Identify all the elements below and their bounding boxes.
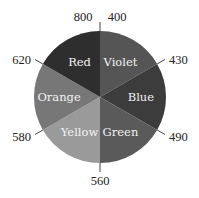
color-wheel-diagram: VioletBlueGreenYellowOrangeRed 400430490… (0, 0, 199, 198)
boundary-label-560: 560 (91, 174, 110, 188)
boundary-label-620: 620 (12, 53, 31, 67)
boundary-tick-60 (157, 60, 165, 65)
boundary-label-400: 400 (108, 10, 127, 24)
boundary-tick-300 (35, 60, 43, 65)
slice-label-green: Green (103, 125, 139, 139)
boundary-label-580: 580 (12, 130, 31, 144)
slice-label-violet: Violet (103, 55, 138, 69)
slice-label-yellow: Yellow (60, 125, 99, 139)
slice-label-red: Red (68, 55, 91, 69)
boundary-label-490: 490 (169, 130, 188, 144)
boundary-tick-120 (157, 130, 165, 135)
slice-label-blue: Blue (128, 90, 155, 104)
slice-label-orange: Orange (37, 90, 81, 104)
boundary-label-430: 430 (169, 53, 188, 67)
boundary-label-800: 800 (74, 10, 93, 24)
boundary-tick-240 (35, 130, 43, 135)
